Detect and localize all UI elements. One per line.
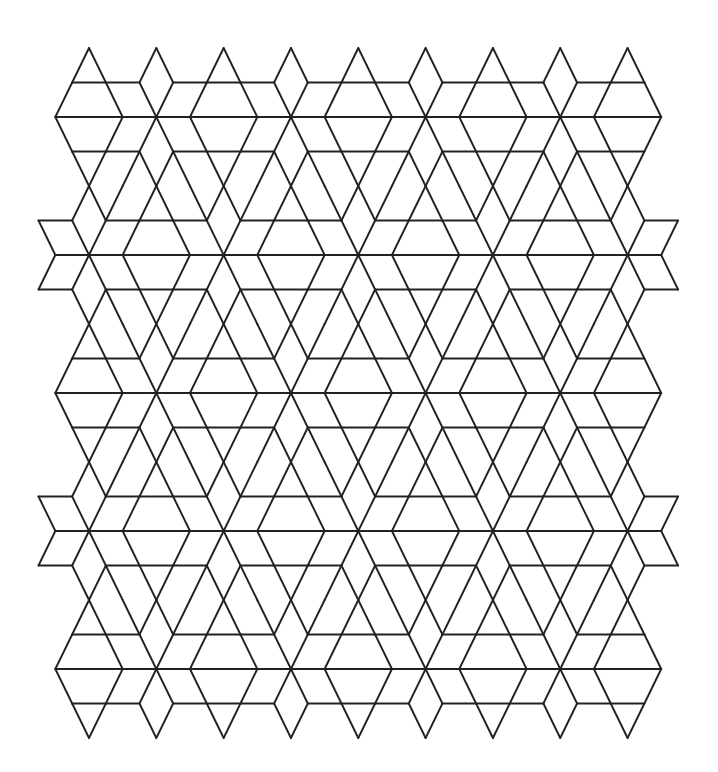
- geometric-tiling-pattern: [39, 48, 679, 738]
- tiling-canvas: [0, 0, 718, 772]
- background: [0, 0, 718, 772]
